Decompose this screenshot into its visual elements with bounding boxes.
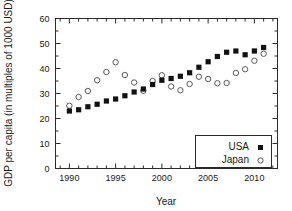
gdp-per-capita-scatter-chart: 0102030405060 19901995200020052010 Year … (0, 0, 292, 211)
y-tick-label: 30 (39, 89, 49, 99)
data-point-usa (215, 54, 220, 59)
y-axis-label: GDP per capita (in multiples of 1000 USD… (3, 0, 14, 187)
x-tick-label: 2010 (244, 173, 264, 183)
data-point-usa (113, 96, 118, 101)
data-point-usa (187, 70, 192, 75)
chart-legend: USA Japan (196, 136, 272, 168)
x-tick-label: 1995 (106, 173, 126, 183)
y-tick-label: 10 (39, 139, 49, 149)
y-tick-label: 40 (39, 64, 49, 74)
data-point-usa (141, 86, 146, 91)
legend-label-usa: USA (228, 141, 249, 152)
y-tick-label: 0 (44, 164, 49, 174)
data-point-usa (159, 78, 164, 83)
x-axis-label: Year (156, 196, 177, 207)
data-point-usa (178, 74, 183, 79)
data-point-usa (132, 89, 137, 94)
y-tick-label: 60 (39, 14, 49, 24)
data-point-usa (243, 52, 248, 57)
data-point-usa (150, 82, 155, 87)
data-point-usa (95, 102, 100, 107)
legend-label-japan: Japan (222, 154, 249, 165)
data-point-usa (233, 48, 238, 53)
x-tick-label: 1990 (59, 173, 79, 183)
y-tick-label: 20 (39, 114, 49, 124)
data-point-usa (67, 108, 72, 113)
data-point-usa (252, 48, 257, 53)
data-point-usa (261, 45, 266, 50)
y-tick-label: 50 (39, 39, 49, 49)
data-point-usa (196, 65, 201, 70)
data-point-usa (76, 107, 81, 112)
data-point-usa (104, 98, 109, 103)
data-point-usa (122, 93, 127, 98)
legend-marker-usa-square-icon (258, 145, 263, 150)
x-tick-label: 2000 (152, 173, 172, 183)
data-point-usa (169, 76, 174, 81)
x-tick-label: 2005 (198, 173, 218, 183)
data-point-usa (206, 59, 211, 64)
data-point-usa (224, 50, 229, 55)
data-point-usa (85, 104, 90, 109)
chart-figure: 0102030405060 19901995200020052010 Year … (0, 0, 292, 211)
